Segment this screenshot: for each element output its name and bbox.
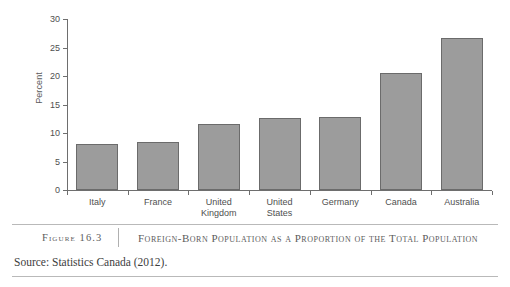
y-tick-label: 5 (34, 157, 60, 166)
figure-source: Source: Statistics Canada (2012). (14, 256, 167, 268)
bar (380, 73, 422, 190)
x-tick-label: Italy (67, 197, 128, 208)
bar (76, 144, 118, 190)
x-tick-mark (249, 191, 250, 195)
chart-plot-area: Percent 051015202530 ItalyFranceUnitedKi… (0, 0, 510, 215)
x-tick-mark (67, 191, 68, 195)
x-tick-label: France (128, 197, 189, 208)
y-tick-label: 15 (34, 100, 60, 109)
y-tick-label: 10 (34, 129, 60, 138)
x-tick-mark (310, 191, 311, 195)
caption-rule-top (12, 224, 498, 225)
y-tick-label: 25 (34, 43, 60, 52)
caption-rule-bottom (12, 276, 498, 277)
bar (137, 142, 179, 190)
x-axis-tick-labels: ItalyFranceUnitedKingdomUnitedStatesGerm… (67, 197, 492, 227)
x-tick-label: Australia (431, 197, 492, 208)
x-tick-label: Germany (310, 197, 371, 208)
y-tick-label: 20 (34, 72, 60, 81)
y-axis-tick-labels: 051015202530 (34, 14, 60, 194)
x-tick-mark (188, 191, 189, 195)
y-tick-label: 0 (34, 186, 60, 195)
x-tick-mark (431, 191, 432, 195)
y-tick-label: 30 (34, 15, 60, 24)
figure-caption: Figure 16.3 Foreign-Born Population as a… (12, 231, 498, 251)
x-tick-label: Canada (371, 197, 432, 208)
bar (441, 38, 483, 190)
x-tick-label: UnitedStates (249, 197, 310, 218)
bar (319, 117, 361, 190)
x-tick-mark (371, 191, 372, 195)
bar (198, 124, 240, 190)
figure-container: Percent 051015202530 ItalyFranceUnitedKi… (0, 0, 510, 287)
caption-divider (118, 228, 119, 247)
figure-number: Figure 16.3 (42, 232, 102, 243)
x-tick-label: UnitedKingdom (188, 197, 249, 218)
bar-series (67, 19, 492, 190)
figure-caption-title: Foreign-Born Population as a Proportion … (138, 232, 478, 244)
x-tick-mark (492, 191, 493, 195)
x-tick-mark (128, 191, 129, 195)
x-axis-line (67, 190, 492, 191)
bar (259, 118, 301, 190)
